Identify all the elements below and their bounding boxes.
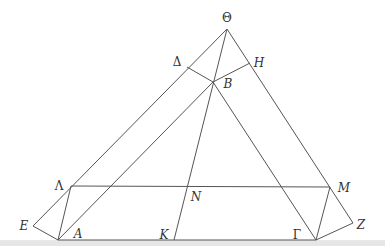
segment-e-a xyxy=(33,226,58,240)
point-label-m: M xyxy=(337,181,351,195)
point-label-e: E xyxy=(19,219,29,233)
segments xyxy=(33,29,353,240)
segment-delta-b xyxy=(187,67,213,82)
point-labels: ΘΔHBΛNMEAKΓZ xyxy=(19,11,366,242)
point-label-n: N xyxy=(190,190,202,204)
segment-b-a xyxy=(58,82,213,240)
segment-m-gamma xyxy=(316,187,330,240)
page-edge-shadow xyxy=(0,242,385,246)
point-label-h: H xyxy=(253,56,265,70)
point-label-lambda: Λ xyxy=(54,179,64,193)
point-label-theta: Θ xyxy=(222,11,232,25)
point-label-delta: Δ xyxy=(173,55,182,69)
point-label-gamma: Γ xyxy=(293,228,301,242)
point-label-a: A xyxy=(73,227,83,241)
segment-theta-k xyxy=(174,29,227,240)
segment-theta-z xyxy=(227,29,353,223)
segment-b-gamma xyxy=(213,82,316,240)
segment-z-gamma xyxy=(316,223,353,240)
point-label-k: K xyxy=(159,228,170,242)
point-label-z: Z xyxy=(356,218,366,232)
geometry-diagram: ΘΔHBΛNMEAKΓZ xyxy=(0,0,385,251)
point-label-b: B xyxy=(223,77,233,91)
